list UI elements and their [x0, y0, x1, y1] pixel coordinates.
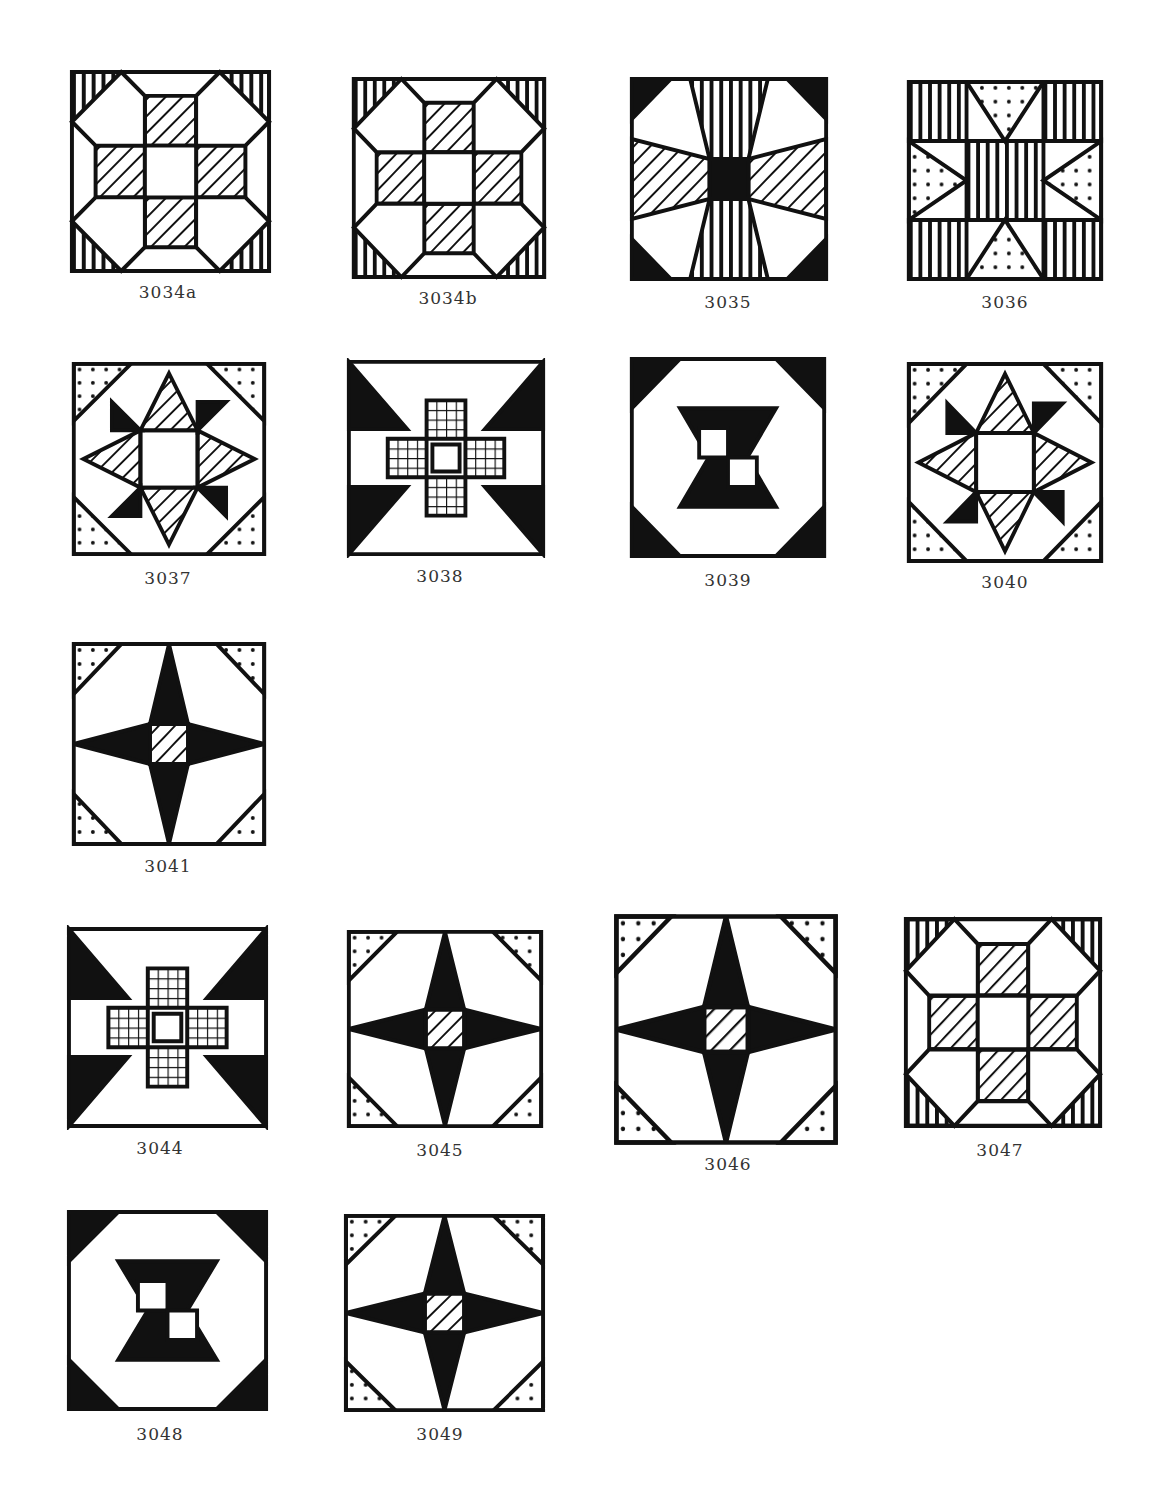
- quilt-block-3039: [628, 355, 828, 560]
- quilt-block-illustration: [65, 925, 270, 1130]
- quilt-block-illustration: [905, 360, 1105, 565]
- quilt-block-illustration: [628, 355, 828, 560]
- block-number-label: 3034b: [348, 288, 548, 308]
- quilt-block-illustration: [350, 75, 548, 281]
- block-number-label: 3046: [628, 1154, 828, 1174]
- quilt-block-illustration: [905, 78, 1105, 283]
- quilt-block-3038: [345, 358, 547, 558]
- quilt-block-illustration: [345, 928, 545, 1130]
- quilt-block-illustration: [70, 360, 268, 558]
- quilt-block-3035: [628, 75, 830, 283]
- quilt-block-3048: [65, 1208, 270, 1413]
- quilt-block-3046: [612, 912, 840, 1147]
- quilt-block-3034a: [68, 68, 273, 275]
- quilt-block-3041: [70, 640, 268, 848]
- quilt-block-3040: [905, 360, 1105, 565]
- block-number-label: 3047: [900, 1140, 1100, 1160]
- quilt-block-3044: [65, 925, 270, 1130]
- quilt-block-3037: [70, 360, 268, 558]
- quilt-block-3047: [902, 915, 1104, 1130]
- block-number-label: 3044: [60, 1138, 260, 1158]
- quilt-block-3036: [905, 78, 1105, 283]
- quilt-block-illustration: [628, 75, 830, 283]
- quilt-block-illustration: [68, 68, 273, 275]
- block-number-label: 3045: [340, 1140, 540, 1160]
- block-number-label: 3034a: [68, 282, 268, 302]
- block-number-label: 3038: [340, 566, 540, 586]
- block-number-label: 3049: [340, 1424, 540, 1444]
- block-number-label: 3040: [905, 572, 1105, 592]
- quilt-block-3049: [342, 1212, 547, 1414]
- quilt-block-illustration: [612, 912, 840, 1147]
- quilt-block-3034b: [350, 75, 548, 281]
- quilt-block-illustration: [345, 358, 547, 558]
- quilt-block-3045: [345, 928, 545, 1130]
- block-number-label: 3048: [60, 1424, 260, 1444]
- quilt-block-illustration: [70, 640, 268, 848]
- block-number-label: 3041: [68, 856, 268, 876]
- quilt-block-illustration: [65, 1208, 270, 1413]
- block-number-label: 3035: [628, 292, 828, 312]
- block-number-label: 3039: [628, 570, 828, 590]
- quilt-block-illustration: [902, 915, 1104, 1130]
- block-number-label: 3037: [68, 568, 268, 588]
- block-number-label: 3036: [905, 292, 1105, 312]
- quilt-block-illustration: [342, 1212, 547, 1414]
